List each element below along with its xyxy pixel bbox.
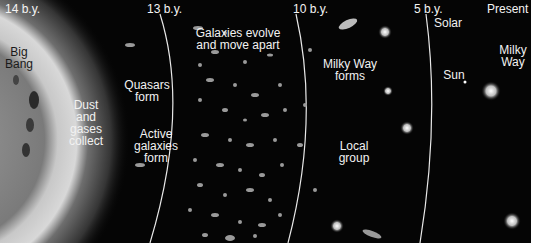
era-label-present: Present	[487, 3, 528, 16]
milky-way-forms-label: Milky Way forms	[318, 58, 382, 82]
sun-label: Sun	[441, 69, 467, 81]
solar-label: Solar	[430, 17, 466, 29]
galaxies-evolve-label: Galaxies evolve and move apart	[192, 27, 284, 51]
active-galaxies-label: Active galaxies form	[130, 128, 182, 164]
era-label-5-by: 5 b.y.	[414, 3, 442, 16]
era-label-14-by: 14 b.y.	[5, 3, 40, 16]
universe-timeline-diagram: 14 b.y. 13 b.y. 10 b.y. 5 b.y. Present B…	[0, 0, 531, 243]
milky-way-label: Milky Way	[496, 44, 530, 68]
era-label-13-by: 13 b.y.	[147, 3, 182, 16]
era-label-10-by: 10 b.y.	[293, 3, 328, 16]
dust-gases-label: Dust and gases collect	[68, 99, 104, 147]
big-bang-label: Big Bang	[4, 46, 34, 70]
quasars-form-label: Quasars form	[124, 79, 170, 103]
local-group-label: Local group	[336, 140, 372, 164]
big-bang-sphere	[0, 0, 130, 243]
